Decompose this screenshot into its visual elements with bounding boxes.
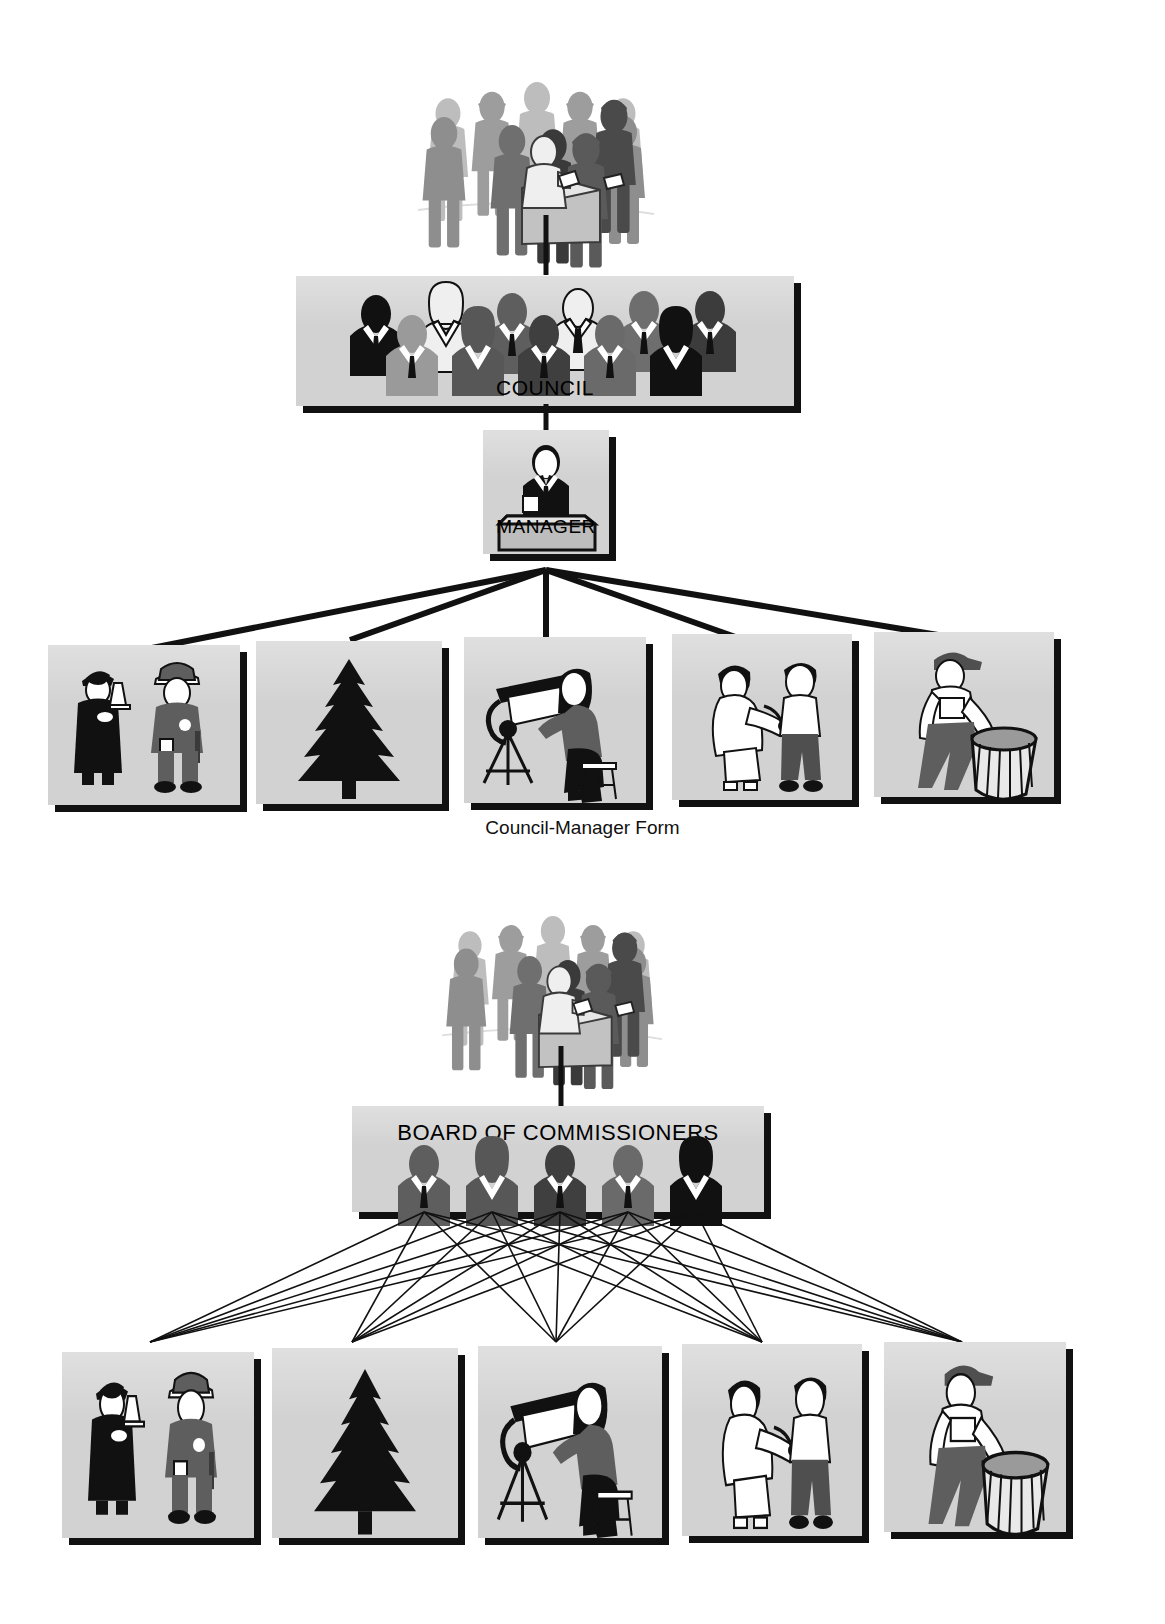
caption-council-manager: Council-Manager Form: [0, 817, 1165, 839]
department-panel-health-bottom[interactable]: [682, 1344, 862, 1536]
crowd-of-voters-icon: [442, 872, 662, 1072]
evergreen-tree-icon: [272, 1348, 458, 1538]
evergreen-tree-icon: [256, 641, 442, 804]
department-panel-sanitation-top[interactable]: [874, 632, 1054, 797]
manager-label: MANAGER: [483, 516, 609, 538]
nurse-examining-patient-icon: [682, 1344, 862, 1536]
department-panel-health-top[interactable]: [672, 634, 852, 800]
voters-crowd-top: [418, 42, 654, 242]
council-label: COUNCIL: [296, 376, 794, 400]
commissioner-busts-icon: [352, 1106, 764, 1212]
drafter-at-drawing-board-icon: [464, 637, 646, 803]
department-panel-engineering-top[interactable]: [464, 637, 646, 803]
council-panel[interactable]: COUNCIL: [296, 276, 794, 406]
department-panel-parks-top[interactable]: [256, 641, 442, 804]
diagram-page: COUNCIL MANAGER: [0, 0, 1165, 1624]
department-panel-sanitation-bottom[interactable]: [884, 1342, 1066, 1532]
department-panel-public-safety-bottom[interactable]: [62, 1352, 254, 1538]
department-panel-engineering-bottom[interactable]: [478, 1346, 662, 1538]
judge-and-police-officer-icon: [48, 645, 240, 805]
department-panel-public-safety-top[interactable]: [48, 645, 240, 805]
department-panel-parks-bottom[interactable]: [272, 1348, 458, 1538]
crowd-of-voters-icon: [418, 42, 654, 242]
drafter-at-drawing-board-icon: [478, 1346, 662, 1538]
judge-and-police-officer-icon: [62, 1352, 254, 1538]
sanitation-worker-with-trash-can-icon: [884, 1342, 1066, 1532]
manager-panel[interactable]: MANAGER: [483, 430, 609, 554]
sanitation-worker-with-trash-can-icon: [874, 632, 1054, 797]
nurse-examining-patient-icon: [672, 634, 852, 800]
voters-crowd-bottom: [442, 872, 662, 1072]
board-of-commissioners-panel[interactable]: BOARD OF COMMISSIONERS: [352, 1106, 764, 1212]
